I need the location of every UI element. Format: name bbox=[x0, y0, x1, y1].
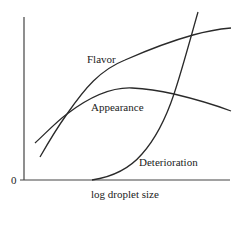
flavor-label: Flavor bbox=[87, 54, 116, 65]
appearance-label: Appearance bbox=[91, 102, 144, 113]
origin-label: 0 bbox=[11, 175, 17, 186]
x-axis-label: log droplet size bbox=[91, 189, 159, 200]
flavor-curve bbox=[40, 28, 231, 157]
deterioration-label: Deterioration bbox=[139, 157, 198, 168]
appearance-curve bbox=[35, 88, 231, 143]
